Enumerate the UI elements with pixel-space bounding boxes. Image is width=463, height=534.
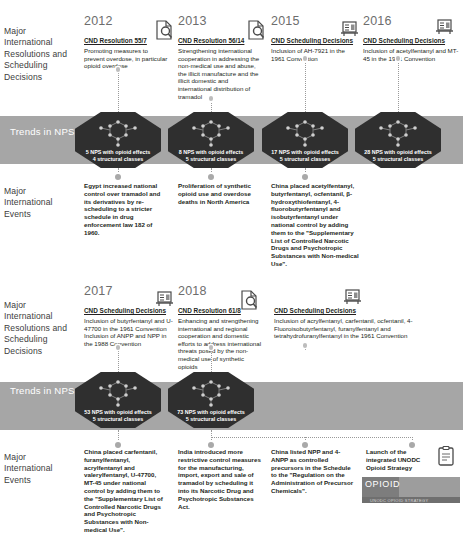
connector-line — [398, 59, 399, 116]
resolution-body: Inclusion of acrylfentanyl, carfentanil,… — [274, 317, 454, 340]
resolution-body: Inclusion of butyrfentanyl and U-47700 i… — [84, 317, 174, 347]
document-search-icon — [240, 290, 258, 310]
trend-count: 73 NPS with opioid effects 5 structural … — [177, 409, 244, 423]
logo-subtitle: UNODC OPIOID STRATEGY — [370, 498, 428, 503]
event-text-china-precursors: China listed NPP and 4-ANPP as controlle… — [271, 448, 357, 495]
resolution-title: CND Scheduling Decisions — [274, 299, 454, 317]
trend-count: 8 NPS with opioid effects 5 structural c… — [179, 149, 243, 163]
trend-count: 28 NPS with opioid effects 5 structural … — [364, 149, 431, 163]
event-text-2018: India introduced more restrictive contro… — [178, 448, 262, 510]
molecule-icon — [92, 118, 144, 148]
event-text-2017: China placed carfentanil, furanylfentany… — [84, 448, 168, 534]
document-search-icon — [247, 20, 265, 40]
row-label-events: Major International Events — [4, 186, 76, 220]
molecule-icon — [372, 118, 424, 148]
resolution-body: Inclusion of AH-7921 in the 1961 Convent… — [271, 47, 355, 62]
trend-count: 53 NPS with opioid effects 5 structural … — [84, 409, 151, 423]
connector-pin — [116, 67, 121, 72]
timeline-cell-scheduling-2018b[interactable]: CND Scheduling Decisions Inclusion of ac… — [274, 299, 454, 340]
event-text-2013: Proliferation of synthetic opioid use an… — [178, 182, 262, 205]
scheduling-board-icon — [340, 20, 359, 37]
connector-pin — [396, 56, 401, 61]
molecule-icon — [92, 378, 144, 408]
connector-pin — [209, 345, 214, 350]
molecule-icon — [185, 378, 237, 408]
logo-title: OPIOID — [365, 479, 400, 489]
document-search-icon — [155, 20, 173, 40]
scheduling-board-icon — [343, 288, 362, 305]
connector-pin — [115, 174, 121, 180]
row-label-events-2: Major International Events — [4, 452, 76, 486]
clipboard-checklist-icon — [437, 446, 455, 466]
connector-pin — [303, 343, 308, 348]
trend-count: 17 NPS with opioid effects 5 structural … — [271, 149, 338, 163]
resolution-body: Inclusion of acetylfentanyl and MT-45 in… — [363, 47, 459, 62]
logo-strip: UNODC OPIOID STRATEGY — [362, 497, 460, 503]
scheduling-board-icon — [155, 290, 174, 307]
connector-pin — [303, 56, 308, 61]
connector-pin — [208, 174, 214, 180]
molecule-icon — [185, 118, 237, 148]
resolution-body: Enhancing and strengthening internationa… — [178, 317, 264, 370]
resolution-body: Strengthening international cooperation … — [178, 47, 262, 100]
unodc-opioid-strategy-logo: OPIOID UNODC OPIOID STRATEGY — [362, 477, 460, 503]
connector-line — [118, 70, 119, 116]
connector-pin — [302, 174, 308, 180]
event-text-unodc-strategy: Launch of the integrated UNODC Opioid St… — [366, 448, 430, 471]
molecule-icon — [279, 118, 331, 148]
connector-pin — [209, 96, 214, 101]
trend-count: 5 NPS with opioid effects 4 structural c… — [86, 149, 150, 163]
event-text-2015: China placed acetylfentanyl, butyrfentan… — [271, 182, 359, 268]
connector-pin — [116, 345, 121, 350]
row-label-resolutions-2: Major International Resolutions and Sche… — [4, 300, 76, 357]
connector-line — [305, 59, 306, 116]
event-text-2012: Egypt increased national control over tr… — [84, 182, 168, 237]
row-label-resolutions: Major International Resolutions and Sche… — [4, 26, 76, 83]
scheduling-board-icon — [435, 18, 454, 35]
resolution-body: Promoting measures to prevent overdose, … — [84, 47, 170, 70]
connector-line-horizontal — [211, 437, 413, 438]
